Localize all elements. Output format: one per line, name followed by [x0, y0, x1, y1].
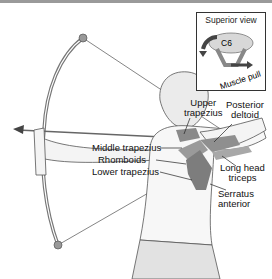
label-long-head-triceps: Long head triceps — [220, 163, 265, 183]
hand-grip — [34, 128, 46, 175]
pants — [132, 240, 220, 279]
label-middle-trapezius: Middle trapezius — [92, 143, 161, 153]
bow-tip-bottom — [54, 241, 62, 249]
bow-tip-top — [79, 34, 87, 42]
superior-view-inset: Superior view C6 Muscle pull — [196, 12, 266, 91]
label-serratus-anterior: Serratus anterior — [218, 189, 254, 209]
label-upper-trapezius: Upper trapezius — [184, 98, 223, 118]
bow-string-lower — [58, 192, 150, 245]
label-posterior-deltoid: Posterior deltoid — [226, 100, 264, 120]
arrowhead-icon — [13, 125, 24, 134]
vertebra-label: C6 — [221, 38, 232, 48]
label-lower-trapezius: Lower trapezius — [92, 167, 159, 177]
label-rhomboids: Rhomboids — [98, 155, 146, 165]
